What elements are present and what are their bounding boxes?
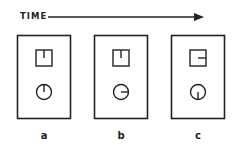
frame-label-a: a [34,130,54,141]
square-indicator-icon [36,50,52,66]
frame-label-b: b [111,130,131,141]
frame-b [95,36,148,119]
time-arrow-icon [48,13,204,21]
diagram-canvas [0,0,237,149]
dial-indicator-icon [37,85,52,100]
square-indicator-icon [113,50,129,66]
frame-c [172,36,225,119]
frame-label-c: c [188,130,208,141]
square-indicator-icon [190,50,206,66]
dial-indicator-icon [114,85,129,100]
dial-indicator-icon [191,85,206,100]
frame-a [18,36,71,119]
